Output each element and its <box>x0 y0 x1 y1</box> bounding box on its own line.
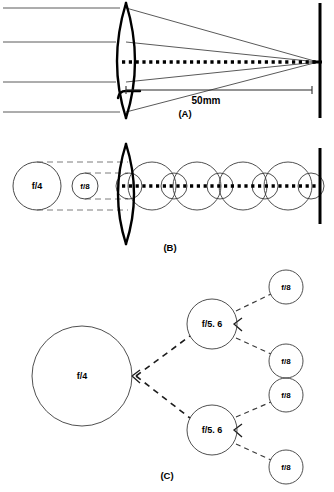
branch-f56upper-to-f8-1 <box>236 294 271 311</box>
optics-figure: 50mm (A) f/4 f/8 <box>0 0 334 492</box>
node-label-f8-1: f/8 <box>281 283 291 292</box>
measurement-label: 50mm <box>192 95 221 106</box>
arrowhead-into-f56-lower <box>234 424 242 437</box>
panel-a: 50mm (A) <box>3 3 322 119</box>
panel-b: f/4 f/8 (B) <box>13 144 324 253</box>
panel-b-aperture-circles: f/4 f/8 <box>13 162 98 210</box>
node-label-f8-4: f/8 <box>281 463 291 472</box>
node-label-f8-2: f/8 <box>281 357 291 366</box>
branch-f4-to-f56-lower <box>136 376 190 418</box>
node-f8-2: f/8 <box>269 344 303 378</box>
node-f8-3: f/8 <box>269 378 303 412</box>
measurement-50mm: 50mm <box>126 86 312 106</box>
panel-a-refracted-rays <box>126 8 318 112</box>
node-f8-4: f/8 <box>269 450 303 484</box>
node-f8-1: f/8 <box>269 270 303 304</box>
panel-label-b: (B) <box>163 242 176 253</box>
node-label-f56-lower: f/5. 6 <box>202 425 223 435</box>
lens-b-surface-right <box>126 144 134 244</box>
branch-f4-to-f56-upper <box>136 336 190 376</box>
aperture-label-f4: f/4 <box>32 181 43 191</box>
panel-label-a: (A) <box>178 108 191 119</box>
panel-a-incoming-rays <box>3 8 120 112</box>
ray-refracted-1 <box>126 8 318 62</box>
node-f56-upper: f/5. 6 <box>187 299 237 349</box>
panel-c-arrowheads <box>132 318 242 437</box>
ray-refracted-2 <box>126 42 318 62</box>
panel-label-c: (C) <box>160 470 173 481</box>
ray-refracted-3 <box>126 62 318 82</box>
branch-f56upper-to-f8-2 <box>236 338 271 354</box>
branch-f56lower-to-f8-4 <box>236 444 271 460</box>
lens-b-surface-left <box>118 144 126 244</box>
node-f4: f/4 <box>32 326 132 426</box>
panel-c: f/4 f/5. 6 f/5. 6 f/8 f/8 <box>32 270 303 484</box>
node-label-f4: f/4 <box>77 371 88 381</box>
node-label-f56-upper: f/5. 6 <box>202 319 223 329</box>
branch-f56lower-to-f8-3 <box>236 402 271 417</box>
node-label-f8-3: f/8 <box>281 391 291 400</box>
node-f56-lower: f/5. 6 <box>187 405 237 455</box>
panel-b-lens <box>118 144 134 244</box>
aperture-label-f8: f/8 <box>80 182 90 191</box>
diagram-canvas: 50mm (A) f/4 f/8 <box>0 0 334 492</box>
ray-refracted-4 <box>126 62 318 112</box>
arrowhead-into-f56-upper <box>234 318 242 331</box>
panel-c-nodes: f/4 f/5. 6 f/5. 6 f/8 f/8 <box>32 270 303 484</box>
